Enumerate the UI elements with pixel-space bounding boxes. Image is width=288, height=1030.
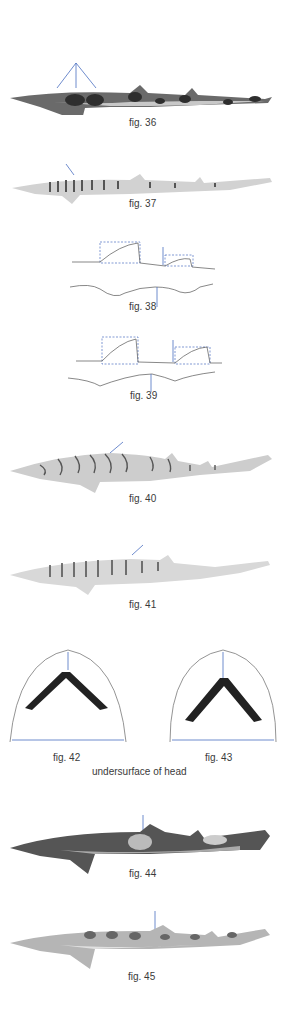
figure-caption: fig. 37	[129, 198, 156, 209]
group-caption: undersurface of head	[92, 766, 187, 777]
figure-caption: fig. 41	[129, 599, 156, 610]
figure-caption: fig. 43	[205, 752, 232, 763]
figure-caption: fig. 36	[129, 117, 156, 128]
figure-41: fig. 41	[0, 535, 288, 615]
figure-42-43: fig. 42 fig. 43 undersurface of head	[0, 640, 288, 780]
figure-caption: fig. 45	[128, 971, 155, 982]
figure-44: fig. 44	[0, 810, 288, 895]
figure-39: fig. 39	[0, 330, 288, 410]
shark-illustration	[0, 905, 288, 975]
shark-illustration	[0, 55, 288, 115]
figure-caption: fig. 42	[53, 752, 80, 763]
figure-37: fig. 37	[0, 150, 288, 225]
figure-caption: fig. 44	[129, 868, 156, 879]
figure-36: fig. 36	[0, 55, 288, 135]
shark-illustration	[0, 535, 288, 595]
figure-45: fig. 45	[0, 905, 288, 995]
figure-caption: fig. 39	[130, 390, 157, 401]
figure-40: fig. 40	[0, 425, 288, 515]
head-undersurface-diagram	[0, 640, 288, 750]
figure-caption: fig. 38	[129, 301, 156, 312]
figure-caption: fig. 40	[129, 493, 156, 504]
figure-38: fig. 38	[0, 235, 288, 315]
shark-illustration	[0, 425, 288, 495]
